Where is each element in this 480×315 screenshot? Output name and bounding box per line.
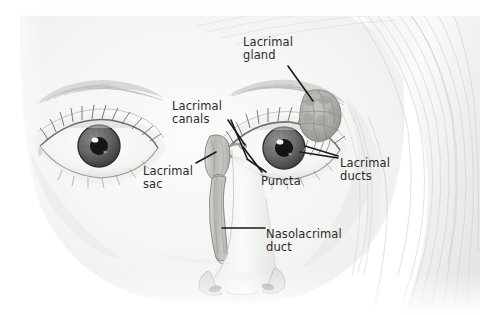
label-lacrimal-canals: Lacrimal canals <box>172 100 222 125</box>
label-puncta: Puncta <box>261 175 301 188</box>
label-nasolacrimal-duct: Nasolacrimal duct <box>266 228 342 253</box>
label-lacrimal-ducts: Lacrimal ducts <box>340 157 390 182</box>
illustration-canvas: Lacrimal gland Lacrimal canals Lacrimal … <box>0 0 480 315</box>
label-lacrimal-sac: Lacrimal sac <box>143 165 193 190</box>
label-lacrimal-gland: Lacrimal gland <box>243 36 293 61</box>
face-anatomy-drawing <box>0 0 480 315</box>
